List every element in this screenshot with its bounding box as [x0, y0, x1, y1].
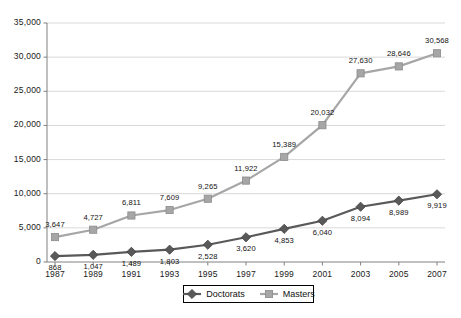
y-axis-tick-label: 20,000 [14, 119, 41, 129]
legend-label: Doctorats [206, 289, 245, 299]
legend-item-masters: Masters [259, 288, 315, 300]
chart-legend: DoctoratsMasters [183, 285, 314, 303]
data-point-marker [166, 206, 173, 213]
data-point-marker [357, 70, 364, 77]
data-point-label: 28,646 [377, 49, 421, 58]
data-point-marker [281, 153, 288, 160]
x-axis-tick-label: 2001 [302, 269, 342, 279]
data-point-label: 30,568 [415, 36, 459, 45]
x-axis-tick-label: 2007 [417, 269, 457, 279]
x-axis-tick-label: 1999 [264, 269, 304, 279]
data-point-marker [127, 247, 136, 256]
data-point-label: 11,922 [224, 164, 268, 173]
data-point-marker [51, 234, 58, 241]
data-point-label: 9,265 [186, 182, 230, 191]
data-point-marker [50, 251, 59, 260]
data-point-marker [432, 190, 441, 199]
data-point-marker [280, 224, 289, 233]
data-point-marker [242, 177, 249, 184]
data-point-label: 20,032 [300, 108, 344, 117]
data-point-marker [203, 240, 212, 249]
data-point-label: 4,727 [71, 213, 115, 222]
line-chart: 05,00010,00015,00020,00025,00030,00035,0… [0, 0, 461, 318]
y-axis-tick-label: 10,000 [14, 188, 41, 198]
legend-square-icon [259, 288, 279, 300]
data-point-label: 4,853 [262, 236, 306, 245]
x-axis-tick-label: 1997 [226, 269, 266, 279]
data-point-marker [89, 250, 98, 259]
data-point-marker [433, 50, 440, 57]
y-axis-tick-label: 25,000 [14, 85, 41, 95]
x-axis-tick-label: 2005 [379, 269, 419, 279]
x-axis-tick-label: 1991 [111, 269, 151, 279]
x-axis-tick-label: 2003 [341, 269, 381, 279]
data-point-label: 15,389 [262, 140, 306, 149]
data-point-label: 9,919 [415, 201, 459, 210]
data-point-marker [394, 196, 403, 205]
legend-label: Masters [283, 289, 315, 299]
y-axis-tick-label: 30,000 [14, 51, 41, 61]
x-axis-tick-label: 1993 [150, 269, 190, 279]
data-point-marker [90, 226, 97, 233]
data-point-marker [128, 212, 135, 219]
data-point-label: 7,609 [148, 193, 192, 202]
x-axis-tick-label: 1995 [188, 269, 228, 279]
data-point-marker [356, 202, 365, 211]
legend-diamond-icon [182, 288, 202, 300]
data-point-marker [319, 122, 326, 129]
data-point-marker [318, 216, 327, 225]
data-point-label: 6,040 [300, 228, 344, 237]
data-point-label: 3,620 [224, 244, 268, 253]
data-point-marker [204, 195, 211, 202]
y-axis-tick-label: 35,000 [14, 17, 41, 27]
y-axis-tick-label: 15,000 [14, 154, 41, 164]
data-point-marker [241, 233, 250, 242]
data-point-marker [395, 63, 402, 70]
legend-item-doctorats: Doctorats [182, 288, 245, 300]
data-point-marker [165, 245, 174, 254]
